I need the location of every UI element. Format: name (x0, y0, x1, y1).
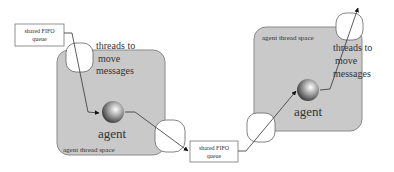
agent-thread-diagram: shared FIFO queue shared FIFO queue thre… (0, 0, 394, 172)
left-agent-sphere-icon (102, 101, 124, 123)
left-agent-label: agent (98, 126, 127, 141)
right-threads-label-3: messages (333, 68, 371, 79)
right-thread-space-label: agent thread space (262, 34, 314, 42)
fifo-label-line1: shared FIFO (24, 28, 55, 34)
left-threads-label-3: messages (96, 65, 134, 76)
left-thread-space-label: agent thread space (63, 146, 115, 154)
right-agent-label: agent (294, 104, 323, 119)
fifo-label-line2: queue (207, 153, 222, 159)
left-threads-label-1: threads to (96, 40, 135, 51)
right-agent-sphere-icon (297, 79, 319, 101)
right-threads-label-1: threads to (333, 42, 372, 53)
fifo-label-line2: queue (32, 36, 47, 42)
shared-fifo-queue-middle: shared FIFO queue (190, 141, 238, 162)
right-thread-port-out (336, 13, 363, 40)
left-thread-port-in (66, 43, 93, 72)
left-thread-port-out (155, 120, 185, 152)
shared-fifo-queue-top-left: shared FIFO queue (15, 24, 64, 46)
fifo-label-line1: shared FIFO (199, 145, 230, 151)
right-threads-label-2: move (335, 55, 358, 66)
left-threads-label-2: move (98, 53, 121, 64)
right-thread-port-in (247, 113, 275, 142)
